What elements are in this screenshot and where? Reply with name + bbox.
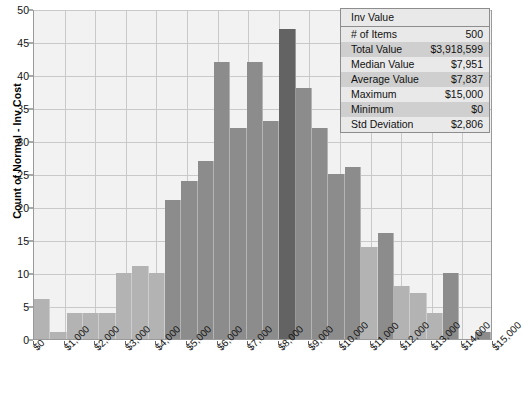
x-tick-mark	[339, 341, 340, 345]
stats-row: Minimum$0	[341, 102, 489, 117]
stats-row-value: $7,951	[451, 58, 483, 70]
bar	[328, 174, 344, 339]
x-tick-mark	[247, 341, 248, 345]
stats-row-value: $2,806	[451, 118, 483, 130]
stats-row-value: $3,918,599	[430, 43, 483, 55]
x-tick-mark	[370, 341, 371, 345]
x-tick-mark	[431, 341, 432, 345]
bar	[181, 181, 197, 339]
bar	[247, 62, 263, 339]
bar	[345, 167, 361, 339]
x-tick-mark	[155, 341, 156, 345]
x-tick-mark	[64, 341, 65, 345]
stats-panel: Inv Value # of Items500Total Value$3,918…	[340, 8, 490, 133]
x-tick-mark	[33, 341, 34, 345]
stats-row: Std Deviation$2,806	[341, 117, 489, 132]
x-tick-mark	[400, 341, 401, 345]
x-tick-mark	[308, 341, 309, 345]
stats-row-label: Median Value	[351, 58, 414, 70]
stats-row-value: $7,837	[451, 73, 483, 85]
x-tick-mark	[125, 341, 126, 345]
stats-row: Median Value$7,951	[341, 57, 489, 72]
x-tick-mark	[217, 341, 218, 345]
bar	[312, 128, 328, 339]
stats-row-label: # of Items	[351, 28, 397, 40]
bar	[198, 161, 214, 339]
bar	[279, 29, 295, 339]
stats-row-value: $0	[471, 103, 483, 115]
stats-row-label: Total Value	[351, 43, 402, 55]
bar	[50, 332, 66, 339]
bar	[165, 200, 181, 339]
stats-row-label: Minimum	[351, 103, 394, 115]
stats-rows: # of Items500Total Value$3,918,599Median…	[341, 27, 489, 132]
x-tick-mark	[186, 341, 187, 345]
x-tick-mark	[492, 341, 493, 345]
stats-row-label: Maximum	[351, 88, 397, 100]
bar	[263, 121, 279, 339]
x-tick-label: $15,000	[490, 319, 523, 352]
stats-row: Average Value$7,837	[341, 72, 489, 87]
stats-row: Maximum$15,000	[341, 87, 489, 102]
bar	[230, 128, 246, 339]
stats-row-value: 500	[465, 28, 483, 40]
bar	[34, 299, 50, 339]
stats-row-value: $15,000	[445, 88, 483, 100]
y-axis: Count of Normal - Inv Cost 0510152025303…	[0, 10, 33, 340]
x-tick-mark	[461, 341, 462, 345]
stats-row: # of Items500	[341, 27, 489, 42]
stats-row-label: Average Value	[351, 73, 419, 85]
x-tick-mark	[94, 341, 95, 345]
bar	[214, 62, 230, 339]
stats-row: Total Value$3,918,599	[341, 42, 489, 57]
x-axis: $0$1,000$2,000$3,000$4,000$5,000$6,000$7…	[33, 341, 492, 394]
x-tick-mark	[278, 341, 279, 345]
stats-row-label: Std Deviation	[351, 118, 413, 130]
bar	[296, 88, 312, 339]
stats-panel-header: Inv Value	[341, 9, 489, 27]
